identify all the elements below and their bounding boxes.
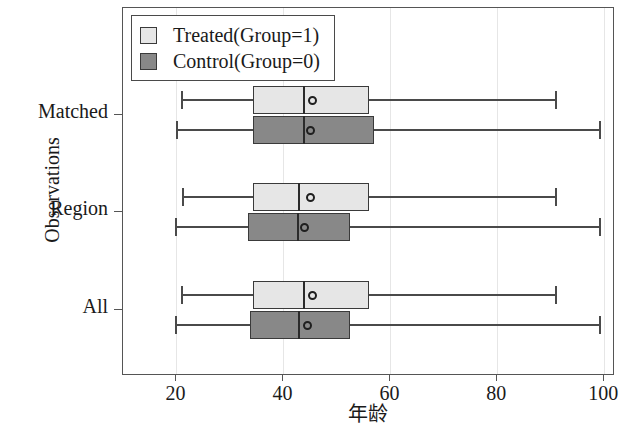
mean-marker — [306, 126, 315, 135]
x-axis-tick-label: 60 — [359, 383, 419, 403]
whisker-cap-min — [175, 218, 177, 236]
legend-label-control: Control(Group=0) — [173, 51, 320, 71]
x-axis-tick — [175, 375, 176, 381]
x-axis-tick-label: 100 — [573, 383, 623, 403]
y-axis-category-label: All — [82, 296, 108, 316]
whisker-line — [175, 226, 599, 228]
whisker-cap-max — [599, 218, 601, 236]
median-line — [298, 183, 300, 211]
legend-label-treated: Treated(Group=1) — [173, 25, 319, 45]
legend-item-treated: Treated(Group=1) — [140, 22, 320, 48]
whisker-line — [175, 324, 599, 326]
x-axis-tick-label: 40 — [252, 383, 312, 403]
median-line — [297, 213, 299, 241]
x-axis-tick — [496, 375, 497, 381]
y-axis-tick — [114, 211, 122, 212]
whisker-cap-min — [181, 286, 183, 304]
mean-marker — [308, 291, 317, 300]
whisker-cap-max — [599, 121, 601, 139]
whisker-cap-max — [555, 91, 557, 109]
y-axis-tick — [114, 309, 122, 310]
median-line — [303, 116, 305, 144]
whisker-cap-min — [176, 121, 178, 139]
x-axis-tick-label: 20 — [145, 383, 205, 403]
x-axis-tick-label: 80 — [466, 383, 526, 403]
mean-marker — [303, 321, 312, 330]
x-axis-tick — [282, 375, 283, 381]
y-axis-title: Observations — [42, 60, 62, 320]
mean-marker — [308, 96, 317, 105]
legend-item-control: Control(Group=0) — [140, 48, 320, 74]
x-axis-tick — [389, 375, 390, 381]
whisker-line — [176, 129, 598, 131]
mean-marker — [306, 193, 315, 202]
whisker-cap-min — [182, 188, 184, 206]
whisker-cap-min — [175, 316, 177, 334]
legend-swatch-control-icon — [140, 53, 157, 70]
whisker-cap-max — [555, 188, 557, 206]
whisker-cap-min — [181, 91, 183, 109]
y-axis-tick — [114, 114, 122, 115]
median-line — [298, 311, 300, 339]
median-line — [303, 86, 305, 114]
whisker-cap-max — [555, 286, 557, 304]
x-axis-title: 年龄 — [122, 404, 614, 424]
median-line — [303, 281, 305, 309]
whisker-cap-max — [599, 316, 601, 334]
x-axis-tick — [603, 375, 604, 381]
mean-marker — [300, 223, 309, 232]
legend: Treated(Group=1) Control(Group=0) — [131, 15, 335, 81]
legend-swatch-treated-icon — [140, 27, 157, 44]
